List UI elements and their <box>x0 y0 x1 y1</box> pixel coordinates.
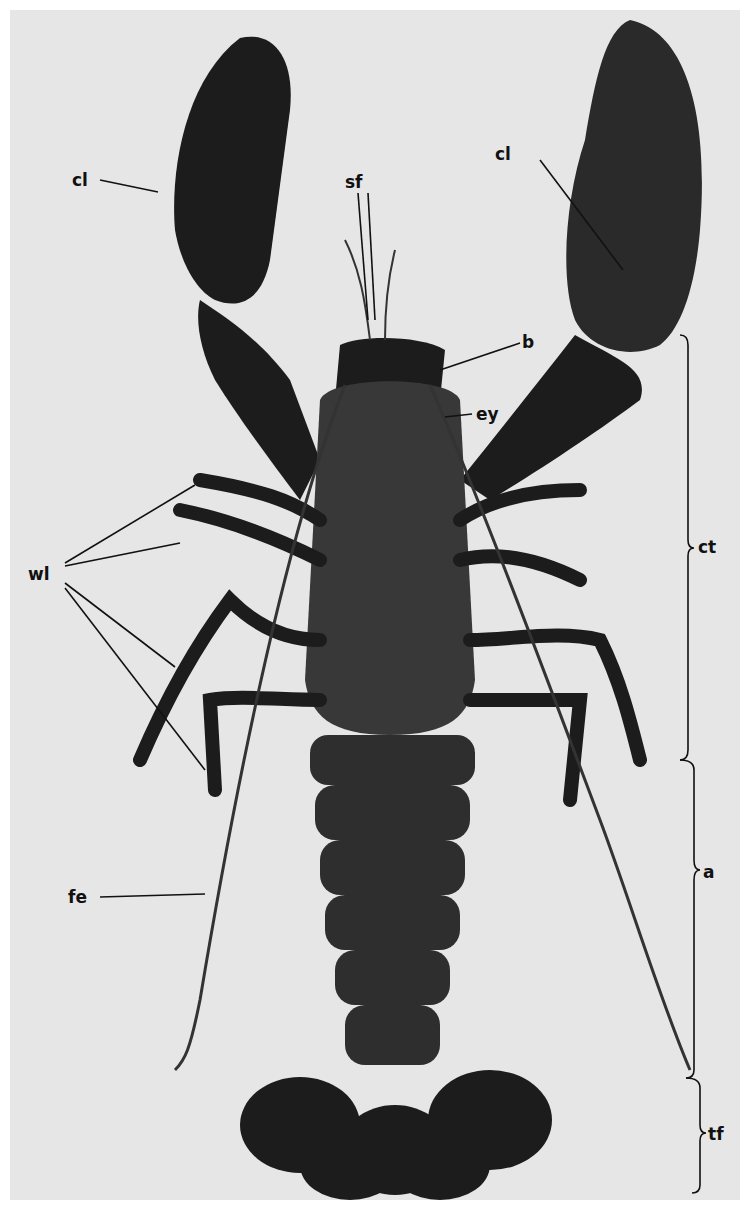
left-claw <box>174 37 291 304</box>
brace-ct <box>680 335 694 760</box>
label-walking-legs: wl <box>28 564 50 584</box>
label-claw-right: cl <box>495 144 511 164</box>
right-claw <box>566 20 702 352</box>
label-antennules: sf <box>345 172 363 192</box>
antennules <box>345 240 395 340</box>
label-tail-fan: tf <box>708 1124 724 1144</box>
left-walking-legs <box>140 480 320 790</box>
right-walking-legs <box>460 490 640 800</box>
label-cephalothorax: ct <box>698 537 716 557</box>
lobster-diagram: cl cl sf b ey wl fe ct a tf <box>0 0 750 1210</box>
label-claw-left: cl <box>72 170 88 190</box>
label-antenna: fe <box>68 887 87 907</box>
brace-a <box>680 760 700 1078</box>
tail-fan <box>240 1070 552 1200</box>
lobster-body <box>140 20 702 1200</box>
abdomen <box>310 735 475 1065</box>
region-braces <box>680 335 706 1193</box>
label-rostrum: b <box>522 332 534 352</box>
label-eye: ey <box>476 404 499 424</box>
brace-tf <box>686 1078 706 1193</box>
label-abdomen: a <box>703 862 714 882</box>
left-claw-arm <box>198 300 320 500</box>
